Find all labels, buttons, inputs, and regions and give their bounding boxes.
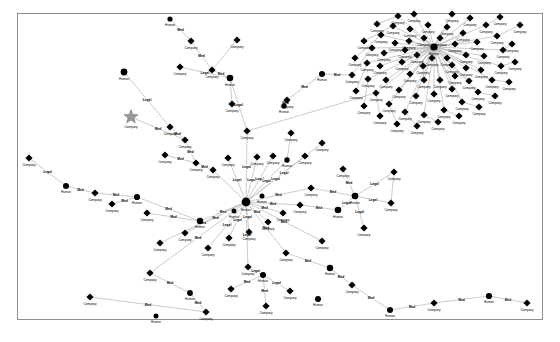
node-company[interactable] — [348, 281, 355, 288]
node-company[interactable] — [380, 49, 387, 56]
node-company[interactable] — [391, 39, 398, 46]
node-human[interactable] — [121, 69, 128, 76]
node-company[interactable] — [360, 102, 367, 109]
node-company[interactable] — [161, 151, 168, 158]
node-human[interactable] — [315, 296, 321, 302]
node-company[interactable] — [286, 287, 293, 294]
node-company[interactable] — [25, 154, 32, 161]
node-human[interactable] — [486, 293, 492, 299]
node-company[interactable] — [108, 200, 115, 207]
node-company[interactable] — [497, 62, 504, 69]
node-company[interactable] — [253, 153, 260, 160]
node-company[interactable] — [318, 139, 325, 146]
node-company[interactable] — [434, 118, 441, 125]
node-company[interactable] — [318, 237, 325, 244]
node-company[interactable] — [424, 21, 431, 28]
node-company[interactable] — [376, 62, 383, 69]
node-human[interactable] — [352, 193, 359, 200]
node-company[interactable] — [279, 209, 286, 216]
node-company[interactable] — [348, 71, 355, 78]
node-company[interactable] — [443, 23, 450, 30]
node-company[interactable] — [405, 37, 412, 44]
node-company[interactable] — [395, 86, 402, 93]
node-company[interactable] — [372, 89, 379, 96]
node-company[interactable] — [387, 199, 394, 206]
node-company[interactable] — [440, 106, 447, 113]
node-company[interactable] — [262, 302, 269, 309]
node-company[interactable] — [488, 76, 495, 83]
node-human[interactable] — [232, 209, 237, 214]
node-human[interactable] — [63, 183, 69, 189]
node-company[interactable] — [420, 111, 427, 118]
node-company[interactable] — [363, 59, 370, 66]
node-company[interactable] — [420, 76, 427, 83]
node-company[interactable] — [455, 112, 462, 119]
node-human[interactable] — [319, 71, 325, 77]
node-human[interactable] — [187, 290, 193, 296]
node-human[interactable] — [227, 75, 234, 82]
node-human[interactable] — [167, 16, 172, 21]
node-company[interactable] — [86, 293, 93, 300]
node-human[interactable] — [260, 272, 266, 278]
node-company[interactable] — [480, 52, 487, 59]
node-company[interactable] — [360, 37, 367, 44]
node-human[interactable] — [284, 157, 289, 162]
node-company[interactable] — [385, 100, 392, 107]
node-human[interactable] — [387, 307, 393, 313]
node-company[interactable] — [430, 90, 437, 97]
node-company[interactable] — [91, 189, 98, 196]
node-human[interactable] — [242, 198, 251, 207]
node-human[interactable] — [260, 194, 265, 199]
node-company[interactable] — [508, 40, 515, 47]
node-human[interactable] — [197, 218, 203, 224]
node-company[interactable] — [143, 209, 150, 216]
node-company[interactable] — [225, 234, 232, 241]
node-company[interactable] — [192, 159, 199, 166]
node-company[interactable] — [505, 78, 512, 85]
node-company[interactable] — [511, 58, 518, 65]
node-company[interactable] — [296, 201, 303, 208]
node-company[interactable] — [269, 152, 276, 159]
node-company[interactable] — [307, 184, 314, 191]
node-company[interactable] — [373, 20, 380, 27]
node-company[interactable] — [176, 63, 183, 70]
node-company-highlighted[interactable] — [124, 110, 138, 123]
node-company[interactable] — [224, 154, 231, 161]
node-company[interactable] — [339, 165, 346, 172]
node-company[interactable] — [482, 21, 489, 28]
node-company[interactable] — [287, 129, 294, 136]
node-company[interactable] — [458, 98, 465, 105]
node-company[interactable] — [390, 168, 397, 175]
node-company[interactable] — [181, 229, 188, 236]
node-company[interactable] — [448, 85, 455, 92]
node-company[interactable] — [466, 14, 473, 21]
node-company[interactable] — [352, 87, 359, 94]
node-company[interactable] — [516, 21, 523, 28]
node-human[interactable] — [154, 314, 159, 319]
node-company[interactable] — [243, 127, 250, 134]
node-company[interactable] — [462, 64, 469, 71]
node-company[interactable] — [156, 239, 163, 246]
node-company[interactable] — [430, 299, 437, 306]
node-company[interactable] — [364, 75, 371, 82]
node-company[interactable] — [496, 13, 503, 20]
node-company[interactable] — [360, 224, 367, 231]
node-company[interactable] — [413, 51, 420, 58]
node-company[interactable] — [473, 38, 480, 45]
node-company[interactable] — [491, 92, 498, 99]
node-human[interactable] — [335, 207, 342, 214]
node-company[interactable] — [227, 285, 234, 292]
node-company[interactable] — [282, 249, 289, 256]
node-company[interactable] — [475, 103, 482, 110]
node-company[interactable] — [382, 76, 389, 83]
node-company[interactable] — [376, 112, 383, 119]
node-company[interactable] — [436, 76, 443, 83]
node-company[interactable] — [410, 10, 417, 17]
node-company[interactable] — [523, 299, 530, 306]
node-company[interactable] — [406, 25, 413, 32]
node-company[interactable] — [146, 269, 153, 276]
node-company[interactable] — [493, 32, 500, 39]
node-company[interactable] — [448, 10, 455, 17]
node-human[interactable] — [327, 265, 333, 271]
node-company[interactable] — [393, 120, 400, 127]
